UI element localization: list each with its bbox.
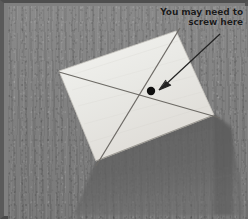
photo-canvas: You may need to screw here (8, 6, 248, 219)
scene-illustration (8, 6, 248, 219)
callout-label-line-2: screw here (160, 18, 243, 28)
callout-label: You may need to screw here (160, 8, 243, 27)
instructional-photo-figure: You may need to screw here (0, 0, 248, 219)
photo-border: You may need to screw here (0, 0, 248, 219)
screw-location-dot (147, 87, 155, 95)
